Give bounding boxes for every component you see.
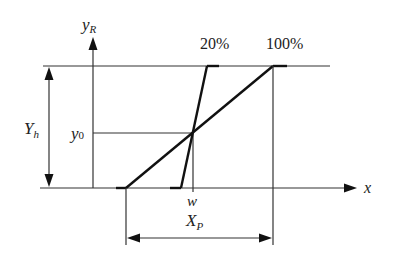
x-axis-arrow-icon xyxy=(344,184,357,193)
xp-label: XP xyxy=(185,211,203,232)
w-label: w xyxy=(187,193,197,209)
yh-arrow-down-icon xyxy=(45,174,54,187)
y0-label: y0 xyxy=(69,124,85,143)
yh-arrow-up-icon xyxy=(45,67,54,80)
band-20-label: 20% xyxy=(200,35,229,52)
band-100-line xyxy=(126,66,273,188)
x-axis-label: x xyxy=(363,179,371,196)
yr-axis-label: yR xyxy=(80,15,97,35)
proportional-band-diagram: yR 20% 100% Yh y0 w XP x xyxy=(0,0,402,262)
yr-axis-arrow-icon xyxy=(89,37,98,50)
yh-label: Yh xyxy=(24,119,39,140)
xp-arrow-left-icon xyxy=(127,234,140,243)
xp-arrow-right-icon xyxy=(259,234,272,243)
band-20-line xyxy=(181,66,207,188)
band-100-label: 100% xyxy=(266,35,303,52)
